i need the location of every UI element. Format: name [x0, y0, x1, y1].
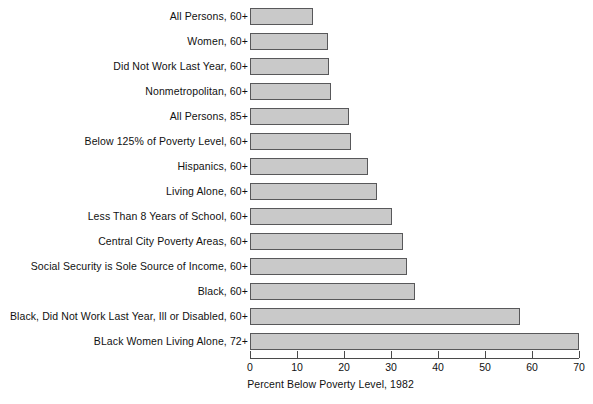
x-axis-tick-label: 10: [291, 361, 303, 373]
x-axis-tick-label: 70: [573, 361, 585, 373]
bar: [250, 258, 407, 275]
bar-category-label: Black, Did Not Work Last Year, Ill or Di…: [0, 308, 248, 325]
bar-category-label: Nonmetropolitan, 60+: [0, 83, 248, 100]
bar-category-label: Living Alone, 60+: [0, 183, 248, 200]
x-axis-title-text: Percent Below Poverty Level, 1982: [247, 378, 414, 390]
bar-row: Did Not Work Last Year, 60+: [0, 58, 593, 83]
x-axis-tick: [391, 351, 392, 358]
bar-category-label: Below 125% of Poverty Level, 60+: [0, 133, 248, 150]
bar-track: [250, 233, 593, 250]
bar-category-label: Hispanics, 60+: [0, 158, 248, 175]
bar-track: [250, 158, 593, 175]
x-axis-tick-label: 60: [526, 361, 538, 373]
bar-track: [250, 33, 593, 50]
bar-track: [250, 183, 593, 200]
bar-row: Women, 60+: [0, 33, 593, 58]
bar-row: Hispanics, 60+: [0, 158, 593, 183]
x-axis-tick-label: 30: [385, 361, 397, 373]
bar-row: Less Than 8 Years of School, 60+: [0, 208, 593, 233]
bar-rows: All Persons, 60+Women, 60+Did Not Work L…: [0, 8, 593, 358]
bar-track: [250, 133, 593, 150]
bar-track: [250, 108, 593, 125]
bar-row: All Persons, 85+: [0, 108, 593, 133]
bar: [250, 208, 392, 225]
bar: [250, 233, 403, 250]
bar-track: [250, 208, 593, 225]
bar-category-label: Less Than 8 Years of School, 60+: [0, 208, 248, 225]
bar: [250, 133, 351, 150]
bar-row: Social Security is Sole Source of Income…: [0, 258, 593, 283]
bar: [250, 308, 520, 325]
bar: [250, 8, 313, 25]
bar-row: Black, Did Not Work Last Year, Ill or Di…: [0, 308, 593, 333]
bar-track: [250, 308, 593, 325]
bar-category-label: All Persons, 85+: [0, 108, 248, 125]
bar: [250, 83, 331, 100]
x-axis-tick: [532, 351, 533, 358]
bar: [250, 333, 579, 350]
bar-track: [250, 83, 593, 100]
bar-row: Black, 60+: [0, 283, 593, 308]
bar-track: [250, 283, 593, 300]
bar-track: [250, 8, 593, 25]
x-axis-title: Percent Below Poverty Level, 1982: [0, 378, 593, 390]
bar: [250, 108, 349, 125]
bar-row: Central City Poverty Areas, 60+: [0, 233, 593, 258]
bar-row: Below 125% of Poverty Level, 60+: [0, 133, 593, 158]
x-axis-tick-label: 0: [247, 361, 253, 373]
x-axis-tick-label: 20: [338, 361, 350, 373]
bar: [250, 158, 368, 175]
bar-category-label: BLack Women Living Alone, 72+: [0, 333, 248, 350]
bar-row: Living Alone, 60+: [0, 183, 593, 208]
bar-category-label: Central City Poverty Areas, 60+: [0, 233, 248, 250]
bar: [250, 183, 377, 200]
bar: [250, 58, 329, 75]
bar-track: [250, 58, 593, 75]
bar: [250, 33, 328, 50]
x-axis-tick: [297, 351, 298, 358]
bar-track: [250, 258, 593, 275]
bar-track: [250, 333, 593, 350]
x-axis-tick-label: 40: [432, 361, 444, 373]
bar-category-label: Women, 60+: [0, 33, 248, 50]
bar-category-label: All Persons, 60+: [0, 8, 248, 25]
bar-row: Nonmetropolitan, 60+: [0, 83, 593, 108]
bar-category-label: Black, 60+: [0, 283, 248, 300]
bar-category-label: Social Security is Sole Source of Income…: [0, 258, 248, 275]
x-axis-tick: [344, 351, 345, 358]
x-axis-tick: [250, 351, 251, 358]
x-axis-tick: [579, 351, 580, 358]
bar-row: All Persons, 60+: [0, 8, 593, 33]
poverty-bar-chart: All Persons, 60+Women, 60+Did Not Work L…: [0, 0, 593, 404]
x-axis-tick-label: 50: [479, 361, 491, 373]
x-axis-tick: [438, 351, 439, 358]
bar: [250, 283, 415, 300]
x-axis: 010203040506070: [250, 358, 579, 359]
x-axis-tick: [485, 351, 486, 358]
bar-category-label: Did Not Work Last Year, 60+: [0, 58, 248, 75]
